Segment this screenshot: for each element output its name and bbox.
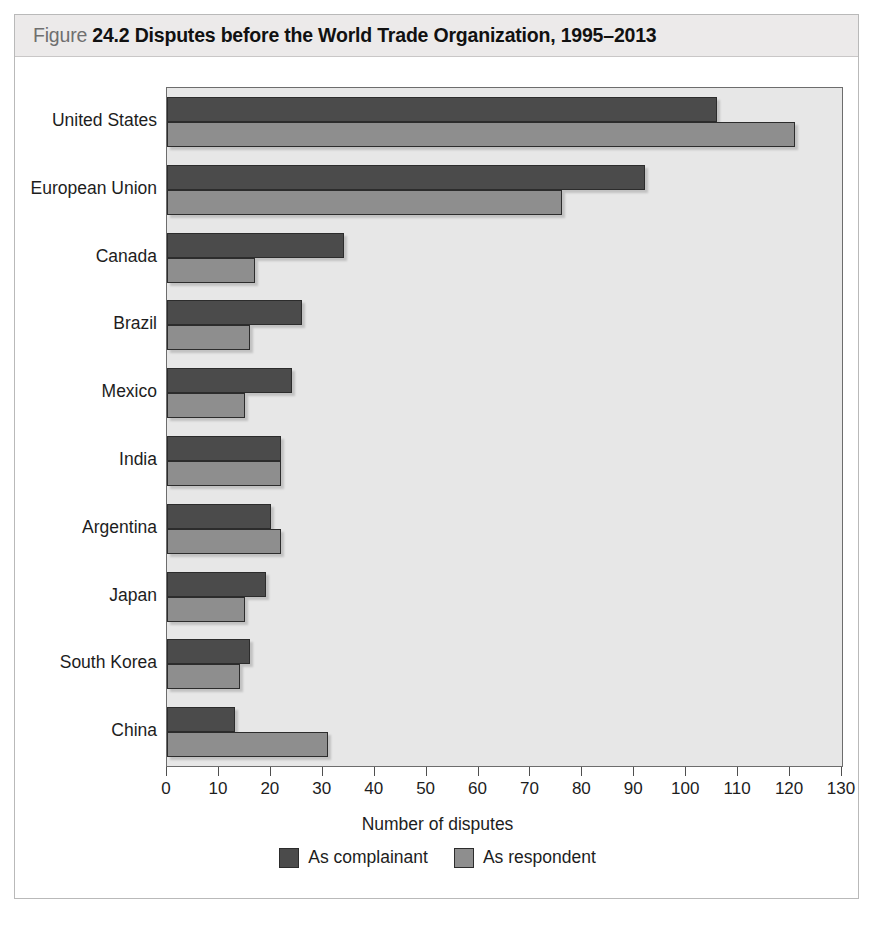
y-axis-label: South Korea [21,652,166,673]
bar-respondent[interactable] [167,597,245,622]
bar-group [167,639,842,689]
bar-respondent[interactable] [167,529,281,554]
x-axis-tick-label: 50 [416,779,435,799]
bar-complainant[interactable] [167,233,344,258]
bar-respondent[interactable] [167,664,240,689]
figure-title: Disputes before the World Trade Organiza… [135,24,657,46]
bar-group [167,504,842,554]
bar-complainant[interactable] [167,300,302,325]
figure-header-band: Figure 24.2 Disputes before the World Tr… [15,15,858,57]
y-axis-label: United States [21,110,166,131]
y-axis-label: India [21,449,166,470]
x-axis-tick [581,767,582,776]
x-axis-tick [737,767,738,776]
x-axis-tick [270,767,271,776]
legend-swatch-icon [454,848,474,868]
bar-complainant[interactable] [167,572,266,597]
x-axis-tick [789,767,790,776]
bar-respondent[interactable] [167,122,795,147]
bar-group [167,707,842,757]
bar-respondent[interactable] [167,258,255,283]
x-axis-tick-label: 110 [724,779,751,799]
bar-complainant[interactable] [167,165,645,190]
bar-group [167,165,842,215]
x-axis-tick [166,767,167,776]
legend-label: As complainant [308,847,428,868]
bar-group [167,436,842,486]
x-axis-tick-label: 70 [520,779,539,799]
bar-respondent[interactable] [167,732,328,757]
figure-container: Figure 24.2 Disputes before the World Tr… [14,14,859,899]
bar-respondent[interactable] [167,325,250,350]
x-axis-tick [633,767,634,776]
bar-group [167,368,842,418]
bar-respondent[interactable] [167,461,281,486]
y-axis-label: European Union [21,178,166,199]
x-axis-tick-label: 10 [208,779,227,799]
bar-respondent[interactable] [167,393,245,418]
legend-item[interactable]: As respondent [454,847,596,868]
x-axis-tick-label: 30 [312,779,331,799]
plot-area [166,87,843,767]
y-axis-label: Mexico [21,381,166,402]
bar-group [167,300,842,350]
x-axis-title: Number of disputes [15,814,859,835]
x-axis-tick [685,767,686,776]
bar-group [167,97,842,147]
y-axis-label: Argentina [21,517,166,538]
bar-complainant[interactable] [167,504,271,529]
bar-group [167,233,842,283]
x-axis-tick-label: 60 [468,779,487,799]
x-axis-tick-label: 20 [260,779,279,799]
y-axis-label: Canada [21,246,166,267]
x-axis-tick-label: 100 [671,779,699,799]
x-axis-tick-label: 120 [775,779,803,799]
legend-item[interactable]: As complainant [279,847,428,868]
x-axis-tick-label: 130 [827,779,855,799]
figure-caption: Figure 24.2 Disputes before the World Tr… [33,24,656,47]
x-axis-tick [218,767,219,776]
x-axis-tick-label: 0 [161,779,170,799]
chart-canvas: United StatesEuropean UnionCanadaBrazilM… [15,57,859,899]
legend-swatch-icon [279,848,299,868]
x-axis-tick-label: 80 [572,779,591,799]
bar-respondent[interactable] [167,190,562,215]
bar-complainant[interactable] [167,436,281,461]
x-axis-tick [426,767,427,776]
x-axis-tick [374,767,375,776]
chart-legend: As complainantAs respondent [15,847,859,868]
bar-complainant[interactable] [167,368,292,393]
x-axis-tick [841,767,842,776]
x-axis-tick [529,767,530,776]
bar-group [167,572,842,622]
x-axis-tick-label: 40 [364,779,383,799]
bar-complainant[interactable] [167,97,717,122]
bar-complainant[interactable] [167,639,250,664]
x-axis-tick [478,767,479,776]
legend-label: As respondent [483,847,596,868]
y-axis-labels: United StatesEuropean UnionCanadaBrazilM… [15,87,166,767]
y-axis-label: China [21,720,166,741]
y-axis-label: Brazil [21,313,166,334]
x-axis-tick-label: 90 [624,779,643,799]
figure-label-word: Figure [33,24,87,46]
figure-number: 24.2 [92,24,129,46]
bar-complainant[interactable] [167,707,235,732]
x-axis-tick [322,767,323,776]
y-axis-label: Japan [21,585,166,606]
